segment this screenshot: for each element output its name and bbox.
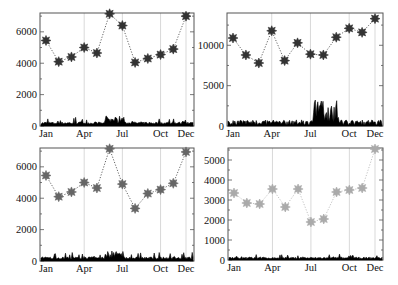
star-marker-jul (117, 21, 127, 31)
daily-series-area (41, 251, 193, 261)
star-marker-oct (344, 185, 354, 195)
star-marker-mar (66, 52, 76, 62)
star-marker-dec (370, 144, 380, 154)
star-marker-may (280, 202, 290, 212)
monthly-series-line (46, 149, 186, 209)
y-tick-label: 5000 (204, 155, 225, 166)
chart-panel-top-right: 0500010000JanAprJulOctDec (198, 13, 384, 139)
plot-frame (228, 148, 383, 260)
y-tick-label: 2000 (204, 215, 225, 226)
star-marker-jan (229, 188, 239, 198)
star-marker-sep (143, 54, 153, 64)
star-marker-nov (168, 178, 178, 188)
y-tick-label: 2000 (16, 89, 37, 100)
plot-frame (40, 148, 194, 261)
star-marker-jul (306, 217, 316, 227)
x-tick-label: Apr (264, 262, 281, 273)
star-marker-apr (267, 184, 277, 194)
y-tick-label: 0 (32, 256, 37, 267)
star-marker-aug (130, 57, 140, 67)
daily-series-area (41, 116, 193, 126)
star-marker-apr (79, 43, 89, 53)
monthly-series-line (234, 149, 375, 222)
y-tick-label: 6000 (16, 161, 37, 172)
monthly-series-line (233, 19, 375, 63)
chart-panel-top-left: 0200040006000JanAprJulOctDec (16, 9, 195, 139)
chart-panel-bottom-right: 010002000300040005000JanAprJulOctDec (204, 144, 384, 273)
star-marker-jul (305, 49, 315, 59)
daily-series-area (228, 100, 382, 126)
daily-series-area (229, 254, 382, 260)
star-marker-jun (293, 38, 303, 48)
x-tick-label: Jul (116, 263, 128, 274)
star-marker-jan (41, 170, 51, 180)
star-marker-dec (181, 11, 191, 21)
x-tick-label: Jan (226, 128, 241, 139)
x-tick-label: Oct (342, 262, 357, 273)
star-marker-mar (66, 187, 76, 197)
x-tick-label: Oct (342, 128, 357, 139)
x-tick-label: Apr (264, 128, 281, 139)
star-marker-nov (357, 183, 367, 193)
y-tick-label: 0 (219, 121, 224, 132)
x-tick-label: Jan (227, 262, 242, 273)
star-marker-may (280, 56, 290, 66)
y-tick-label: 10000 (198, 40, 224, 51)
star-marker-sep (143, 189, 153, 199)
x-tick-label: Jan (39, 128, 54, 139)
y-tick-label: 0 (220, 255, 225, 266)
star-marker-aug (130, 203, 140, 213)
x-tick-label: Jul (305, 262, 317, 273)
x-tick-label: Jul (304, 128, 316, 139)
y-tick-label: 6000 (16, 26, 37, 37)
star-marker-aug (319, 214, 329, 224)
star-marker-sep (331, 32, 341, 42)
star-marker-feb (241, 50, 251, 60)
x-tick-label: Oct (153, 263, 168, 274)
y-tick-label: 4000 (16, 193, 37, 204)
star-marker-jul (117, 179, 127, 189)
star-marker-apr (267, 26, 277, 36)
x-tick-label: Dec (367, 262, 384, 273)
star-marker-feb (242, 198, 252, 208)
star-marker-nov (357, 27, 367, 37)
y-tick-label: 3000 (204, 195, 225, 206)
star-marker-apr (79, 178, 89, 188)
plot-frame (40, 13, 194, 126)
star-marker-jan (41, 35, 51, 45)
star-marker-feb (54, 192, 64, 202)
figure: 0200040006000JanAprJulOctDec0500010000Ja… (0, 0, 398, 285)
star-marker-may (92, 48, 102, 58)
star-marker-dec (181, 147, 191, 157)
star-marker-oct (156, 50, 166, 60)
star-marker-jun (293, 184, 303, 194)
x-tick-label: Apr (76, 128, 93, 139)
y-tick-label: 5000 (203, 80, 224, 91)
x-tick-label: Dec (178, 128, 195, 139)
star-marker-jan (228, 33, 238, 43)
y-tick-label: 1000 (204, 235, 225, 246)
star-marker-dec (370, 14, 380, 24)
star-marker-sep (332, 187, 342, 197)
y-tick-label: 0 (32, 121, 37, 132)
star-marker-aug (318, 50, 328, 60)
chart-panel-bottom-left: 0200040006000JanAprJulOctDec (16, 144, 195, 274)
y-tick-label: 4000 (16, 58, 37, 69)
x-tick-label: Jul (116, 128, 128, 139)
star-marker-mar (254, 58, 264, 68)
star-marker-jun (105, 9, 115, 19)
star-marker-may (92, 183, 102, 193)
y-tick-label: 4000 (204, 175, 225, 186)
x-tick-label: Apr (76, 263, 93, 274)
star-marker-nov (168, 44, 178, 54)
x-tick-label: Dec (367, 128, 384, 139)
y-tick-label: 2000 (16, 224, 37, 235)
star-marker-jun (105, 144, 115, 154)
star-marker-feb (54, 57, 64, 67)
x-tick-label: Dec (178, 263, 195, 274)
star-marker-mar (255, 199, 265, 209)
star-marker-oct (156, 185, 166, 195)
star-marker-oct (344, 23, 354, 33)
x-tick-label: Oct (153, 128, 168, 139)
x-tick-label: Jan (39, 263, 54, 274)
